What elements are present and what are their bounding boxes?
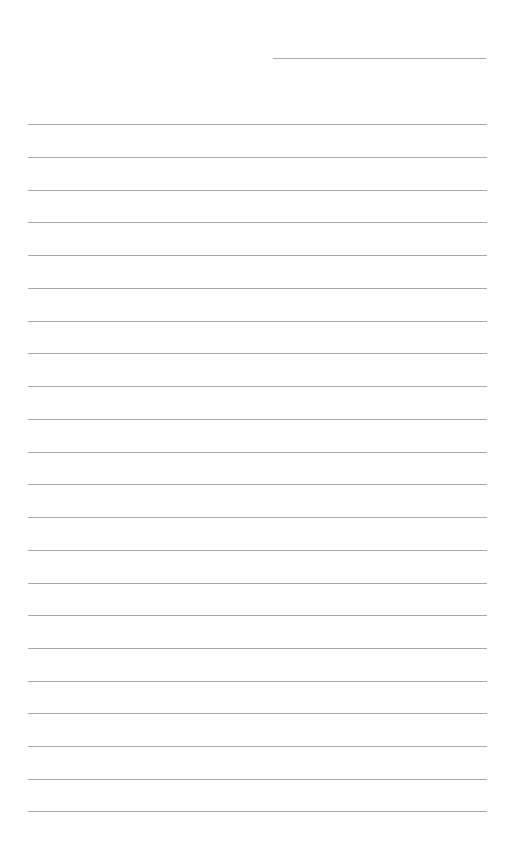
ruled-line xyxy=(28,124,487,125)
ruled-line xyxy=(28,681,487,682)
ruled-line xyxy=(28,517,487,518)
lined-paper-page xyxy=(0,0,510,851)
header-date-line xyxy=(273,58,486,59)
ruled-line xyxy=(28,713,487,714)
ruled-line xyxy=(28,255,487,256)
ruled-line xyxy=(28,550,487,551)
ruled-line xyxy=(28,583,487,584)
ruled-line xyxy=(28,288,487,289)
ruled-line xyxy=(28,452,487,453)
ruled-line xyxy=(28,222,487,223)
ruled-line xyxy=(28,321,487,322)
ruled-line xyxy=(28,190,487,191)
ruled-line xyxy=(28,386,487,387)
ruled-line xyxy=(28,779,487,780)
ruled-line xyxy=(28,157,487,158)
ruled-line xyxy=(28,648,487,649)
ruled-line xyxy=(28,746,487,747)
ruled-line xyxy=(28,615,487,616)
ruled-line xyxy=(28,419,487,420)
ruled-line xyxy=(28,484,487,485)
ruled-line xyxy=(28,811,487,812)
ruled-line xyxy=(28,353,487,354)
